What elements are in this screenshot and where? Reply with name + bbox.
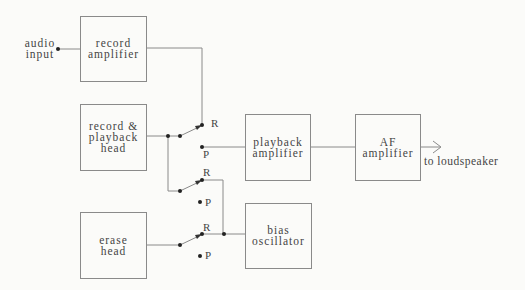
record-playback-head-block: record & playback head xyxy=(80,104,147,171)
af-amplifier-block: AF amplifier xyxy=(355,114,421,181)
playback-amplifier-label: playback amplifier xyxy=(252,137,303,159)
record-amplifier-block: record amplifier xyxy=(80,16,147,82)
erase-head-label: erase head xyxy=(99,235,128,257)
af-amplifier-label: AF amplifier xyxy=(362,137,413,159)
switch-3-r-label: R xyxy=(203,221,210,233)
erase-head-block: erase head xyxy=(80,212,147,279)
playback-amplifier-block: playback amplifier xyxy=(245,114,311,181)
switch-2-r-label: R xyxy=(203,166,210,178)
audio-input-terminal xyxy=(56,47,60,51)
to-loudspeaker-label: to loudspeaker xyxy=(424,156,498,167)
record-playback-head-label: record & playback head xyxy=(89,121,139,154)
switch-2-p-label: P xyxy=(205,196,211,208)
bias-oscillator-block: bias oscillator xyxy=(245,203,312,269)
switch-3-p-label: P xyxy=(205,249,211,261)
audio-input-label: audio input xyxy=(24,38,56,60)
switch-1-p-label: P xyxy=(203,148,209,160)
record-amplifier-label: record amplifier xyxy=(88,38,139,60)
switch-1-r-label: R xyxy=(211,117,218,129)
bias-oscillator-label: bias oscillator xyxy=(252,225,305,247)
